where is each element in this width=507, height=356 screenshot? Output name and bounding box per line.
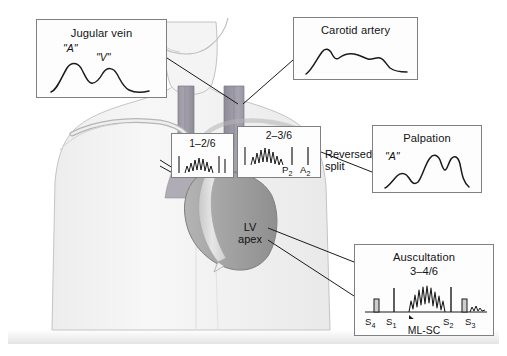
panel-murmur-right: 2–3/6 P2 A2 xyxy=(237,126,321,178)
panel-auscultation: Auscultation 3–4/6 S4 S1 S2 S3 ML-SC xyxy=(354,244,494,336)
figure-canvas: Jugular vein "A" "V" Carotid artery Palp… xyxy=(0,0,507,356)
jugular-title: Jugular vein xyxy=(37,27,166,39)
palpation-waveform xyxy=(383,152,475,190)
carotid-waveform xyxy=(304,40,409,76)
sound-label-a2: A2 xyxy=(300,164,310,178)
auscultation-location: ML-SC xyxy=(355,325,493,336)
jugular-a-wave-label: "A" xyxy=(63,42,78,54)
jugular-waveform xyxy=(49,56,157,94)
panel-jugular-vein: Jugular vein "A" "V" xyxy=(36,19,167,98)
murmur-left-grade: 1–2/6 xyxy=(172,138,233,149)
carotid-title: Carotid artery xyxy=(294,24,417,36)
auscultation-grade: 3–4/6 xyxy=(355,265,493,277)
palpation-title: Palpation xyxy=(373,132,481,144)
panel-murmur-left: 1–2/6 xyxy=(171,133,234,178)
panel-carotid-artery: Carotid artery xyxy=(293,17,418,80)
phonocardiogram-waveform xyxy=(363,279,489,319)
reversed-split-annotation: Reversed split xyxy=(325,148,372,173)
auscultation-title: Auscultation xyxy=(355,251,493,263)
sound-label-p2: P2 xyxy=(282,164,292,178)
murmur-left-waveform xyxy=(176,152,231,176)
panel-palpation: Palpation "A" xyxy=(372,125,482,193)
murmur-right-grade: 2–3/6 xyxy=(238,130,320,141)
lv-apex-annotation: LV apex xyxy=(232,221,268,246)
